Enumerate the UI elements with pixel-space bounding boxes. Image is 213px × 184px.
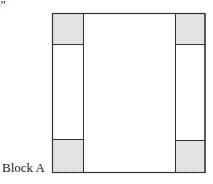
center-rectangle (84, 14, 176, 173)
corner-square-top-right (176, 14, 206, 45)
side-strip-left (53, 45, 84, 140)
side-strip-right (176, 45, 206, 141)
quilt-block-diagram (0, 0, 213, 184)
corner-square-top-left (53, 14, 84, 45)
block-label: Block A (2, 161, 45, 175)
corner-square-bottom-left (53, 140, 84, 173)
corner-square-bottom-right (176, 141, 206, 173)
